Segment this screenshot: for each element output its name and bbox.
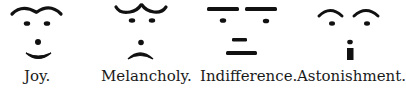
astonishment-mouth-icon <box>347 48 354 60</box>
joy-left-brow-icon <box>12 8 36 14</box>
label-joy: Joy. <box>24 67 50 85</box>
astonishment-nose-icon <box>347 40 353 45</box>
astonishment-right-eye-icon <box>364 21 370 25</box>
label-indifference: Indifference. <box>200 67 297 85</box>
melancholy-right-eye-icon <box>149 18 155 22</box>
melancholy-left-eye-icon <box>129 18 135 22</box>
face-joy-icon <box>12 8 61 59</box>
indifference-left-eye-icon <box>220 18 226 23</box>
indifference-right-eye-icon <box>263 19 269 24</box>
joy-right-brow-icon <box>37 8 61 14</box>
indifference-mouth-icon <box>226 51 257 55</box>
melancholy-nose-icon <box>138 40 144 46</box>
astonishment-right-brow-icon <box>354 11 378 17</box>
joy-left-eye-icon <box>24 21 30 26</box>
joy-mouth-icon <box>26 53 51 59</box>
label-astonishment: Astonishment. <box>297 67 406 85</box>
melancholy-left-brow-icon <box>116 5 141 12</box>
melancholy-right-brow-icon <box>142 5 166 12</box>
face-astonishment-icon <box>319 11 378 61</box>
face-melancholy-icon <box>116 5 166 59</box>
astonishment-left-eye-icon <box>329 21 335 25</box>
label-melancholy: Melancholy. <box>101 67 192 85</box>
indifference-nose-icon <box>232 38 247 42</box>
joy-nose-icon <box>35 39 41 45</box>
astonishment-left-brow-icon <box>319 11 342 17</box>
face-indifference-icon <box>207 7 277 55</box>
indifference-right-brow-icon <box>245 7 277 11</box>
joy-right-eye-icon <box>44 21 50 26</box>
melancholy-mouth-icon <box>128 53 153 59</box>
indifference-left-brow-icon <box>207 7 239 11</box>
